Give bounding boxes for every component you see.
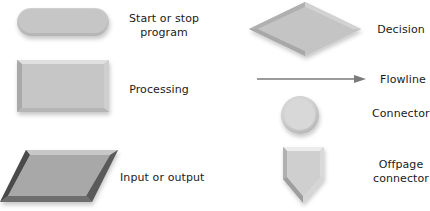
process-icon: [14, 58, 114, 120]
terminal-icon: [14, 6, 114, 42]
offpage-label-line1: Offpage: [372, 158, 430, 172]
process-symbol: [14, 58, 114, 120]
process-label: Processing: [128, 83, 190, 97]
connector-label: Connector: [372, 107, 428, 121]
connector-symbol: [278, 94, 324, 140]
process-label-text: Processing: [129, 83, 189, 96]
decision-symbol: [245, 0, 365, 62]
flowline-symbol: [256, 73, 368, 85]
terminal-label: Start or stop program: [128, 12, 200, 40]
connector-icon: [278, 94, 324, 140]
terminal-label-line2: program: [128, 26, 200, 40]
terminal-label-line1: Start or stop: [128, 12, 200, 26]
offpage-connector-symbol: [280, 145, 328, 207]
flowline-label-text: Flowline: [380, 73, 426, 86]
offpage-label-line2: connector: [372, 172, 430, 186]
input-output-icon: [0, 148, 122, 208]
decision-label-text: Decision: [377, 23, 425, 36]
input-output-symbol: [0, 148, 122, 208]
flowline-label: Flowline: [379, 73, 427, 87]
decision-icon: [245, 0, 365, 62]
decision-label: Decision: [376, 23, 426, 37]
input-output-label-text: Input or output: [120, 171, 205, 184]
terminal-symbol: [14, 6, 114, 42]
arrow-right-icon: [256, 73, 368, 85]
offpage-connector-label: Offpage connector: [372, 158, 430, 186]
offpage-connector-icon: [280, 145, 328, 207]
input-output-label: Input or output: [120, 171, 216, 185]
connector-label-text: Connector: [372, 107, 430, 120]
